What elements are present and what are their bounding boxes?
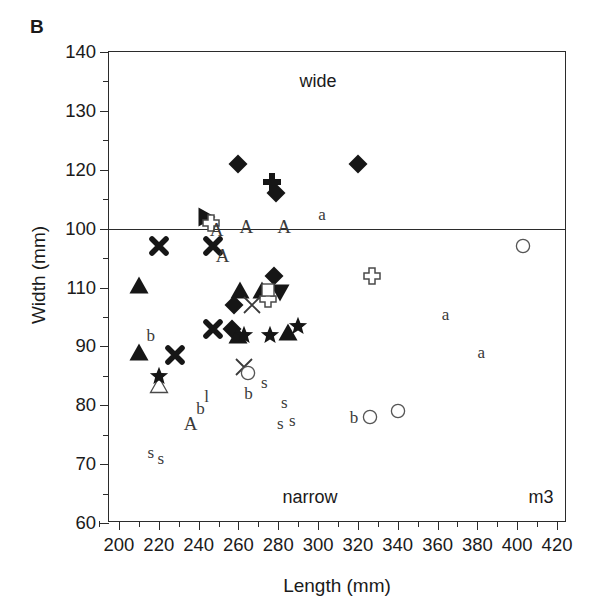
text-data-point-A: A [277,216,291,235]
y-tick-mark-minor [103,435,109,436]
x-tick-mark-minor [418,521,419,527]
x-tick-label: 220 [143,534,174,556]
text-data-point-a: a [442,305,450,322]
y-tick-mark-minor [103,199,109,200]
y-tick-label: 100 [65,218,96,240]
x-tick-mark-minor [219,521,220,527]
text-data-point-b: b [147,326,156,343]
data-point-open-circle [390,403,406,419]
y-tick-label: 90 [75,335,96,357]
text-data-point-s: s [157,450,164,467]
narrow-label: narrow [283,486,338,507]
x-tick-label: 420 [542,534,573,556]
x-tick-mark-minor [338,521,339,527]
text-data-point-b: b [244,385,253,402]
y-tick-label: 80 [75,394,96,416]
x-tick-mark [557,521,558,530]
text-data-point-A: A [216,246,230,265]
y-tick-mark [100,111,109,112]
x-tick-mark [119,521,120,530]
y-tick-mark [100,229,109,230]
x-tick-label: 340 [382,534,413,556]
data-point-filled-up-triangle [129,344,148,361]
x-tick-label: 380 [462,534,493,556]
text-data-point-A: A [210,219,224,238]
x-tick-mark [318,521,319,530]
y-tick-mark [100,464,109,465]
data-point-x-thin [243,296,261,314]
text-data-point-a: a [318,205,326,222]
y-tick-label: 130 [65,100,96,122]
text-data-point-s: s [148,444,155,461]
y-tick-mark-minor [103,317,109,318]
data-point-open-circle [240,365,256,381]
x-tick-mark [159,521,160,530]
text-data-point-l: l [204,388,209,405]
x-tick-mark-minor [258,521,259,527]
data-point-filled-star [149,366,168,385]
y-tick-mark [100,346,109,347]
x-tick-mark-minor [378,521,379,527]
x-tick-label: 400 [502,534,533,556]
m3-label: m3 [529,486,554,507]
data-point-open-cross-plus [363,267,381,285]
figure-panel-b: B Width (mm) Length (mm) 140130120100110… [0,0,603,613]
y-tick-label: 60 [75,512,96,534]
x-tick-mark [238,521,239,530]
x-tick-mark [358,521,359,530]
x-tick-label: 320 [342,534,373,556]
x-tick-label: 200 [104,534,135,556]
data-point-x-bold [149,237,168,256]
data-point-filled-star [261,325,280,344]
y-tick-mark-minor [103,140,109,141]
text-data-point-b: b [350,409,359,426]
text-data-point-s: s [281,394,288,411]
data-point-x-bold [203,319,222,338]
y-tick-label: 70 [75,453,96,475]
x-tick-mark-minor [298,521,299,527]
wide-label: wide [300,71,337,92]
data-point-open-square [261,283,275,297]
y-tick-label: 140 [65,41,96,63]
text-data-point-s: s [277,414,284,431]
y-tick-mark-minor [103,81,109,82]
x-tick-label: 240 [183,534,214,556]
data-point-filled-diamond [229,154,248,173]
x-tick-mark-minor [457,521,458,527]
x-axis-label: Length (mm) [108,575,566,597]
data-point-filled-up-triangle [129,276,148,293]
x-tick-label: 360 [422,534,453,556]
y-tick-label: 110 [67,277,97,299]
x-tick-mark-minor [537,521,538,527]
x-tick-label: 280 [263,534,294,556]
text-data-point-s: s [261,373,268,390]
y-tick-mark [100,405,109,406]
y-tick-label: 120 [65,159,96,181]
y-tick-mark-minor [103,494,109,495]
data-point-filled-cross-plus [263,173,281,191]
wide-narrow-divider-line [109,229,565,230]
x-tick-mark-minor [99,521,100,527]
y-tick-mark-minor [103,258,109,259]
y-tick-mark [100,288,109,289]
data-point-open-circle [362,409,378,425]
x-tick-mark [438,521,439,530]
data-point-filled-star [235,325,254,344]
panel-letter: B [30,16,44,38]
x-tick-label: 300 [303,534,334,556]
x-tick-label: 260 [223,534,254,556]
y-axis-label: Width (mm) [28,160,50,390]
data-point-filled-star [289,316,308,335]
text-data-point-A: A [184,413,198,432]
data-point-open-circle [515,238,531,254]
y-tick-mark [100,523,109,524]
x-tick-mark [477,521,478,530]
y-tick-mark [100,170,109,171]
text-data-point-s: s [289,411,296,428]
x-tick-mark-minor [179,521,180,527]
x-tick-mark [398,521,399,530]
x-tick-mark [199,521,200,530]
data-point-filled-diamond [348,154,367,173]
y-tick-mark [100,52,109,53]
x-tick-mark-minor [497,521,498,527]
